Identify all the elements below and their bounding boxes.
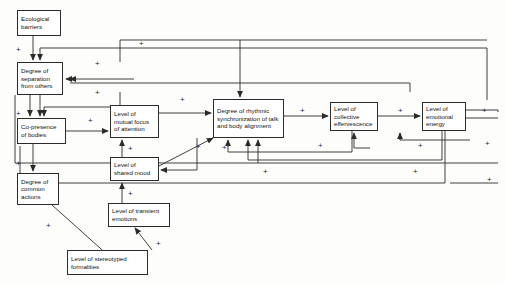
node-mutual-focus[interactable]: Level of mutual focus of attention [110,105,159,138]
node-collective-effervescence[interactable]: Level of collective effervescence [330,102,378,131]
sign-long-feedback2: + [413,168,418,176]
sign-long-feedback: + [263,168,268,176]
node-label: Level of collective effervescence [334,105,374,128]
sign-top-feedback: + [139,40,144,48]
sign-mid-right: + [485,140,490,148]
edge-group [15,36,498,257]
node-label: Co-presence of bodies [21,123,62,138]
node-label: Level of stereotyped formalities [71,255,144,270]
sign-energy-out: + [482,107,487,115]
diagram-canvas: Ecological barriers Degree of separation… [0,0,505,285]
sign-sep-feedback: + [95,60,100,68]
edge-helper-hidden [134,75,338,79]
sign-copres-to-actions: + [16,160,21,168]
node-degree-separation[interactable]: Degree of separation from others [17,62,63,95]
edge-top-feedback-to-separation [40,48,487,60]
node-label: Level of transient emotions [112,207,166,222]
node-label: Level of mutual focus of attention [114,110,155,133]
sign-stereo-to-trans: + [156,240,161,248]
node-co-presence-bodies[interactable]: Co-presence of bodies [17,118,66,144]
edge-shared-mood-to-sync [159,138,213,166]
edge-energy-to-effervescence-return [400,133,470,140]
node-label: Level of emotional energy [426,105,462,128]
edge-energy-long-feedback-left [20,131,445,183]
node-label: Degree of separation from others [21,67,59,90]
sign-copres-to-focus: + [88,117,93,125]
sign-sync-to-eff: + [300,107,305,115]
sign-eff-return: + [318,142,323,150]
sign-sep-feedback2: + [95,89,100,97]
node-shared-mood[interactable]: Level of shared mood [110,157,159,181]
node-stereotyped-formalities[interactable]: Level of stereotyped formalities [67,250,148,275]
node-ecological-barriers[interactable]: Ecological barriers [17,10,61,36]
sign-sep-to-copres: + [16,110,21,118]
edge-feedback-to-copresence [44,92,120,116]
edge-formalities-to-transient [135,228,152,250]
sign-energy-return: + [418,142,423,150]
sign-bottom-right: + [487,176,492,184]
node-label: Degree of rhythmic synchronization of ta… [217,107,280,130]
node-emotional-energy[interactable]: Level of emotional energy [422,102,466,131]
node-degree-common-actions[interactable]: Degree of common actions [17,173,59,205]
node-transient-emotions[interactable]: Level of transient emotions [108,203,170,227]
sign-trans-to-mood: + [128,190,133,198]
sign-eff-to-energy: + [398,107,403,115]
sign-focus-to-sync: + [180,96,185,104]
node-label: Level of shared mood [114,161,155,176]
node-rhythmic-sync[interactable]: Degree of rhythmic synchronization of ta… [213,99,284,138]
node-label: Ecological barriers [21,15,57,30]
sign-mood-to-sync: + [196,143,201,151]
sign-eco-to-sep: + [16,46,21,54]
edge-sync-to-shared-mood [161,138,197,170]
sign-sync-return-low: + [222,144,227,152]
edge-low-return-effervescence [354,133,370,148]
sign-actions-to-stereo: + [46,222,51,230]
node-label: Degree of common actions [21,178,55,201]
sign-mood-to-focus: + [128,145,133,153]
diagram-edges [0,0,505,285]
